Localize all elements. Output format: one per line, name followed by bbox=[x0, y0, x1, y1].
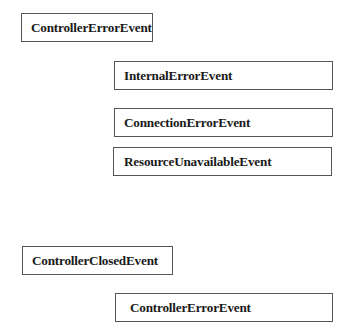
box-label: ConnectionErrorEvent bbox=[124, 115, 250, 131]
child-box-controller-error-event: ControllerErrorEvent bbox=[115, 293, 333, 322]
box-label: ResourceUnavailableEvent bbox=[124, 154, 271, 170]
box-label: ControllerErrorEvent bbox=[130, 300, 251, 316]
box-label: ControllerClosedEvent bbox=[32, 253, 158, 269]
parent-box-controller-error-event: ControllerErrorEvent bbox=[21, 13, 153, 42]
child-box-connection-error-event: ConnectionErrorEvent bbox=[114, 108, 333, 137]
box-label: InternalErrorEvent bbox=[124, 68, 232, 84]
parent-box-controller-closed-event: ControllerClosedEvent bbox=[22, 246, 173, 275]
box-label: ControllerErrorEvent bbox=[31, 20, 152, 36]
child-box-internal-error-event: InternalErrorEvent bbox=[114, 61, 333, 90]
child-box-resource-unavailable-event: ResourceUnavailableEvent bbox=[113, 147, 332, 176]
